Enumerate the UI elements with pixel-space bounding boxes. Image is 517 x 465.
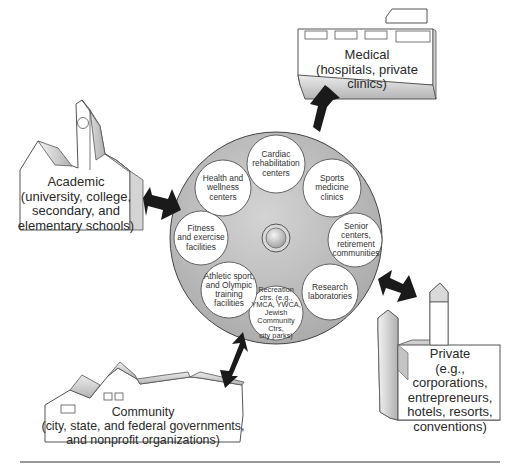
academic-label: Academic (university, college, secondary… <box>14 175 138 233</box>
segment-health-label: Health and wellness centers <box>203 174 244 202</box>
community-label: Community (city, state, and federal gove… <box>40 406 246 448</box>
segment-recreation: Recreation ctrs. (e.g., YMCA, YWCA, Jewi… <box>249 286 303 340</box>
segment-recreation-label: Recreation ctrs. (e.g., YMCA, YWCA, Jewi… <box>249 286 303 340</box>
segment-fitness-label: Fitness and exercise facilities <box>177 224 225 252</box>
medical-title: Medical <box>300 48 434 63</box>
segment-fitness: Fitness and exercise facilities <box>174 211 228 265</box>
segment-sports: Sports medicine clinics <box>303 159 361 217</box>
community-title: Community <box>40 406 246 420</box>
segment-cardiac: Cardiac rehabilitation centers <box>247 135 305 193</box>
arrow-private <box>378 270 417 302</box>
medical-label: Medical (hospitals, private clinics) <box>300 48 434 92</box>
segment-health: Health and wellness centers <box>195 160 251 216</box>
medical-subtitle: (hospitals, private clinics) <box>300 63 434 92</box>
segment-senior: Senior centers, retirement communities <box>328 213 384 267</box>
segment-athletic: Athletic sport, and Olympic training fac… <box>201 262 257 318</box>
private-title: Private <box>396 347 504 362</box>
segment-sports-label: Sports medicine clinics <box>315 174 349 202</box>
segment-senior-label: Senior centers, retirement communities <box>328 222 384 259</box>
arrow-community <box>220 332 248 388</box>
hub-center-icon <box>262 224 290 252</box>
segment-research: Research laboratories <box>302 264 358 320</box>
academic-title: Academic <box>14 175 138 190</box>
segment-athletic-label: Athletic sport, and Olympic training fac… <box>204 272 255 309</box>
private-label: Private (e.g., corporations, entrepreneu… <box>396 347 504 434</box>
segment-research-label: Research laboratories <box>308 283 352 301</box>
segment-cardiac-label: Cardiac rehabilitation centers <box>252 150 300 178</box>
